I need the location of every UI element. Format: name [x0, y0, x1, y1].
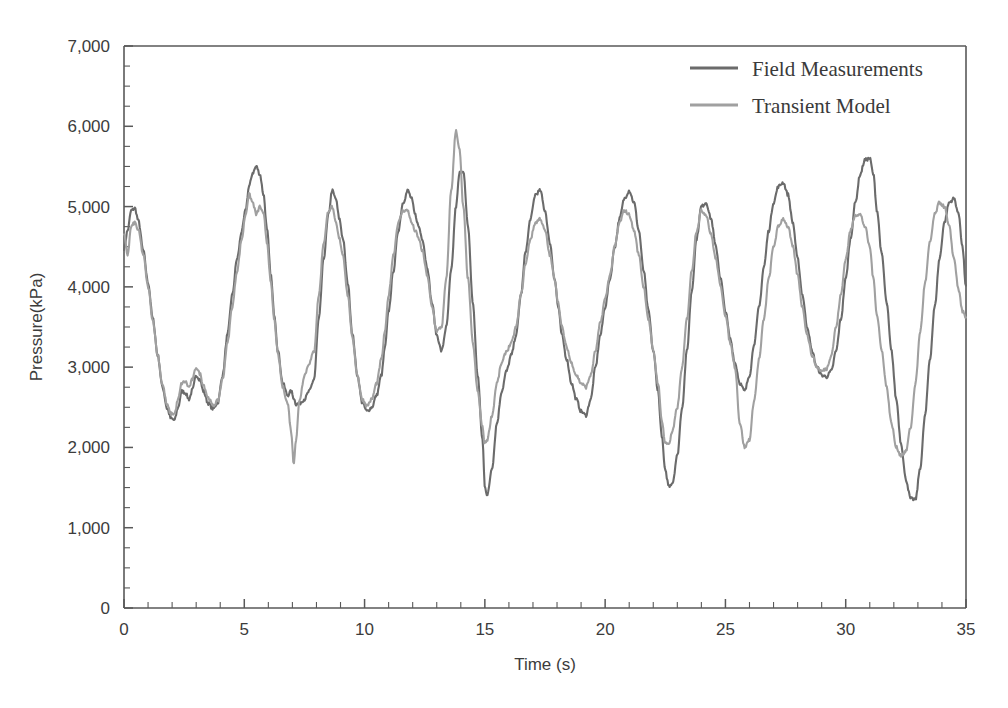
legend-label: Field Measurements	[752, 57, 923, 81]
pressure-time-line-chart: 01,0002,0003,0004,0005,0006,0007,000 051…	[0, 0, 1008, 708]
x-tick-label: 25	[716, 620, 735, 639]
x-tick-label: 35	[957, 620, 976, 639]
y-tick-label: 6,000	[67, 117, 110, 136]
x-tick-label: 30	[836, 620, 855, 639]
x-axis-title: Time (s)	[514, 655, 576, 674]
x-tick-label: 10	[355, 620, 374, 639]
x-tick-label: 15	[475, 620, 494, 639]
y-tick-label: 4,000	[67, 278, 110, 297]
y-tick-label: 0	[101, 599, 110, 618]
x-tick-label: 20	[596, 620, 615, 639]
chart-figure: 01,0002,0003,0004,0005,0006,0007,000 051…	[0, 0, 1008, 708]
x-tick-label: 0	[119, 620, 128, 639]
y-tick-label: 5,000	[67, 198, 110, 217]
y-tick-label: 2,000	[67, 438, 110, 457]
x-tick-label: 5	[240, 620, 249, 639]
y-tick-label: 3,000	[67, 358, 110, 377]
y-axis-title: Pressure(kPa)	[27, 273, 46, 382]
y-tick-label: 7,000	[67, 37, 110, 56]
y-tick-label: 1,000	[67, 519, 110, 538]
legend-label: Transient Model	[752, 94, 891, 118]
